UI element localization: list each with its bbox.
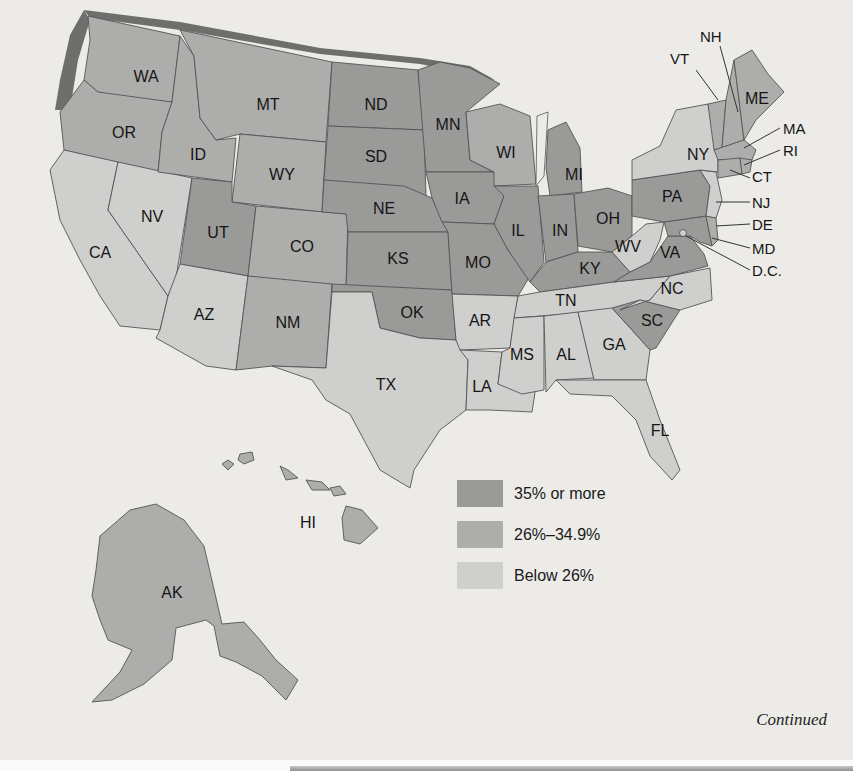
page-edge [0, 760, 853, 771]
label-id: ID [190, 146, 206, 163]
label-ga: GA [602, 336, 625, 353]
label-nc: NC [660, 280, 683, 297]
legend: 35% or more 26%–34.9% Below 26% [457, 473, 606, 596]
legend-item-low: Below 26% [457, 555, 606, 596]
label-mn: MN [436, 116, 461, 133]
label-in: IN [552, 222, 568, 239]
label-pa: PA [662, 188, 682, 205]
us-map: WA OR CA NV ID MT WY UT CO AZ NM ND SD N… [0, 0, 853, 771]
label-nj: NJ [752, 194, 770, 211]
legend-swatch-mid [457, 521, 503, 548]
legend-label: Below 26% [514, 567, 594, 585]
label-co: CO [290, 238, 314, 255]
label-ct: CT [752, 168, 772, 185]
label-de: DE [752, 216, 773, 233]
label-ma: MA [783, 120, 806, 137]
label-fl: FL [651, 422, 670, 439]
label-va: VA [660, 244, 680, 261]
continued-note: Continued [756, 710, 827, 730]
label-ky: KY [579, 260, 601, 277]
state-ri[interactable] [740, 158, 752, 174]
legend-label: 26%–34.9% [514, 526, 600, 544]
state-ct[interactable] [718, 158, 742, 178]
label-ut: UT [207, 224, 229, 241]
label-sd: SD [365, 148, 387, 165]
label-tn: TN [555, 292, 576, 309]
state-wa[interactable] [84, 16, 180, 102]
label-tx: TX [376, 376, 397, 393]
state-mi[interactable] [546, 122, 582, 196]
label-or: OR [112, 124, 136, 141]
state-ak[interactable] [92, 504, 298, 702]
label-mo: MO [465, 254, 491, 271]
label-mt: MT [256, 96, 279, 113]
label-oh: OH [596, 210, 620, 227]
label-la: LA [472, 378, 492, 395]
label-nd: ND [364, 96, 387, 113]
label-ok: OK [400, 304, 423, 321]
label-me: ME [745, 90, 769, 107]
label-ne: NE [373, 200, 395, 217]
legend-item-high: 35% or more [457, 473, 606, 514]
label-ri: RI [783, 142, 798, 159]
label-nv: NV [141, 208, 164, 225]
lake-michigan [536, 112, 548, 186]
legend-swatch-high [457, 480, 503, 507]
label-md: MD [752, 240, 775, 257]
label-dc: D.C. [752, 262, 782, 279]
label-ks: KS [387, 250, 408, 267]
label-ca: CA [89, 244, 112, 261]
legend-item-mid: 26%–34.9% [457, 514, 606, 555]
label-sc: SC [641, 312, 663, 329]
label-al: AL [556, 346, 576, 363]
label-wy: WY [269, 166, 295, 183]
label-nm: NM [276, 314, 301, 331]
label-az: AZ [194, 306, 215, 323]
label-mi: MI [565, 166, 583, 183]
label-ak: AK [161, 584, 183, 601]
label-il: IL [511, 222, 524, 239]
label-vt: VT [670, 50, 689, 67]
label-ms: MS [510, 346, 534, 363]
legend-label: 35% or more [514, 485, 606, 503]
label-hi: HI [300, 514, 316, 531]
label-ny: NY [687, 146, 710, 163]
label-wa: WA [133, 68, 159, 85]
label-nh: NH [700, 28, 722, 45]
label-wv: WV [615, 238, 641, 255]
label-ia: IA [454, 190, 469, 207]
label-wi: WI [496, 144, 516, 161]
label-ar: AR [469, 312, 491, 329]
state-dc[interactable] [680, 230, 687, 237]
state-ny[interactable] [632, 104, 718, 180]
legend-swatch-low [457, 562, 503, 589]
